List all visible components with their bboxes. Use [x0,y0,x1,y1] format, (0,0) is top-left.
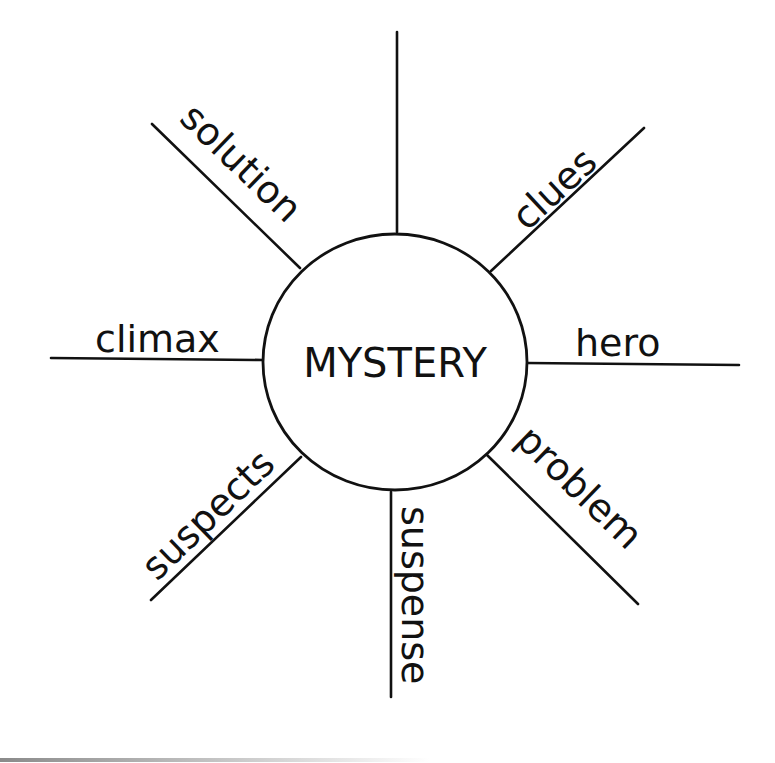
scan-edge-line [0,758,430,762]
center-label: MYSTERY [303,340,487,386]
label-problem: problem [508,417,652,558]
label-hero: hero [575,321,661,365]
label-suspense: suspense [393,506,437,684]
label-climax: climax [95,317,220,361]
label-suspects: suspects [133,441,284,589]
mystery-spider-diagram: MYSTERY solution clues climax hero suspe… [0,0,775,763]
label-clues: clues [503,139,605,239]
